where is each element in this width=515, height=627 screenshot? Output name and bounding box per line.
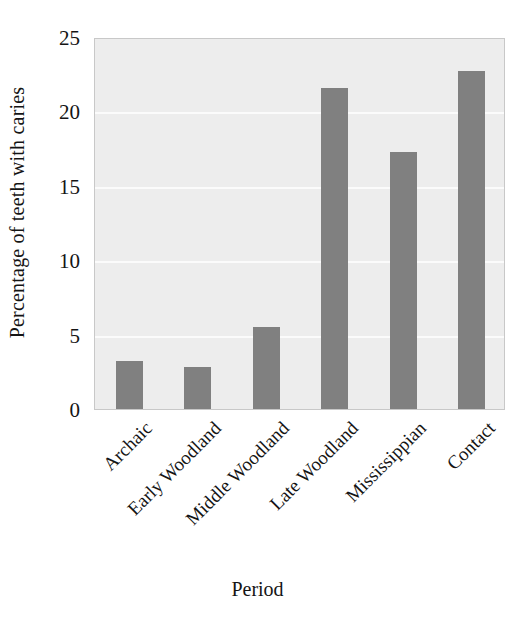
y-tick-label: 5 xyxy=(70,325,81,346)
plot-area xyxy=(94,38,505,410)
y-tick-label: 10 xyxy=(59,251,80,272)
y-tick-label: 0 xyxy=(70,400,81,421)
x-tick-label: Archaic xyxy=(100,418,156,474)
y-axis-tick-labels: 0510152025 xyxy=(38,38,86,410)
bar xyxy=(253,327,280,409)
bar xyxy=(184,367,211,409)
y-tick-label: 15 xyxy=(59,176,80,197)
bar xyxy=(458,71,485,409)
x-tick-label: Contact xyxy=(443,418,498,473)
y-tick-label: 20 xyxy=(59,102,80,123)
bar-series xyxy=(95,39,504,409)
y-axis-title-text: Percentage of teeth with caries xyxy=(7,87,30,339)
bar xyxy=(321,88,348,409)
x-axis-tick-labels: ArchaicEarly WoodlandMiddle WoodlandLate… xyxy=(94,410,505,565)
bar xyxy=(390,152,417,409)
x-axis-title: Period xyxy=(0,578,515,601)
y-axis-title: Percentage of teeth with caries xyxy=(0,0,36,425)
bar xyxy=(116,361,143,409)
y-tick-label: 25 xyxy=(59,28,80,49)
